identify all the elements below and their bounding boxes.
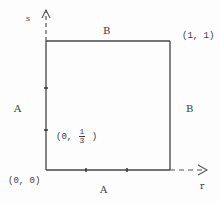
origin-point-label: (0, 0): [8, 177, 40, 186]
s-axis-label: s: [26, 15, 30, 23]
r-axis-label: r: [200, 182, 204, 191]
edge-label-left: A: [14, 104, 21, 114]
corner-point-label: (1, 1): [182, 32, 214, 41]
third-point-label: (0, 1 3 ): [56, 128, 97, 145]
fraction-denominator: 3: [80, 137, 85, 145]
edge-label-right: B: [186, 104, 193, 114]
third-point-suffix: ): [92, 132, 97, 142]
edge-label-top: B: [103, 26, 110, 36]
edge-label-bottom: A: [100, 185, 107, 195]
unit-square-diagram: s r B B A A (1, 1) (0, 0) (0, 1 3 ): [0, 0, 220, 202]
third-point-prefix: (0,: [56, 132, 72, 142]
fraction-one-third: 1 3: [79, 128, 86, 145]
